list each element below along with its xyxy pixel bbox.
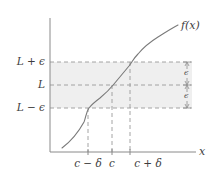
xlabel-c: c (101, 158, 123, 169)
limit-definition-figure: L + ϵ L L − ϵ c − δ c c + δ f(x) x ϵ ϵ (0, 0, 220, 179)
epsilon-label-upper: ϵ (184, 69, 188, 77)
ylabel-L: L (0, 79, 45, 90)
axis-label-x: x (199, 146, 205, 157)
ylabel-L-minus-epsilon: L − ϵ (0, 102, 45, 113)
curve-label-fx: f(x) (181, 20, 200, 31)
epsilon-label-lower: ϵ (184, 92, 188, 100)
xlabel-c-plus-delta: c + δ (125, 158, 171, 169)
ylabel-L-plus-epsilon: L + ϵ (0, 56, 45, 67)
